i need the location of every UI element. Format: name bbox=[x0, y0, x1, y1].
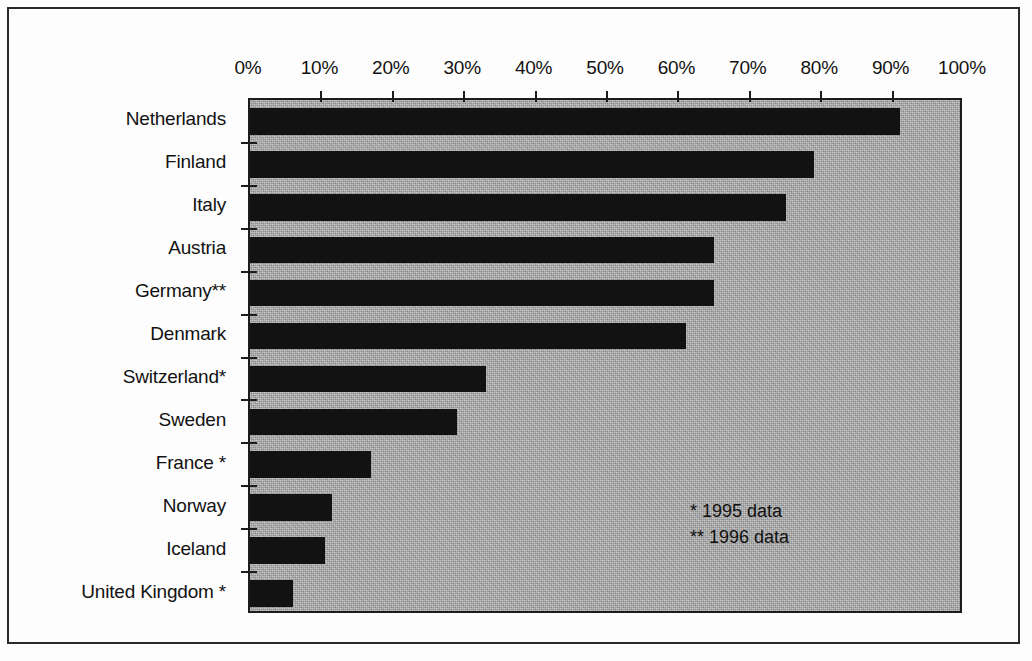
y-axis-category-label: Sweden bbox=[159, 409, 226, 431]
bar-row bbox=[250, 280, 960, 307]
y-axis-tick-mark bbox=[241, 142, 257, 144]
bar-row bbox=[250, 409, 960, 436]
y-axis-category-label: Germany** bbox=[135, 280, 226, 302]
y-axis-tick-mark bbox=[241, 571, 257, 573]
x-axis-tick-label: 80% bbox=[800, 57, 837, 79]
x-axis-tick-mark bbox=[749, 91, 751, 102]
y-axis-category-label: Finland bbox=[165, 151, 226, 173]
bar bbox=[250, 151, 814, 178]
x-axis-tick-label: 70% bbox=[729, 57, 766, 79]
y-axis-tick-mark bbox=[241, 442, 257, 444]
bar-row bbox=[250, 580, 960, 607]
x-axis-tick-mark bbox=[892, 91, 894, 102]
x-axis-tick-label: 30% bbox=[443, 57, 480, 79]
bar bbox=[250, 451, 371, 478]
y-axis-category-label: Norway bbox=[163, 495, 226, 517]
y-axis-category-label: Netherlands bbox=[126, 108, 226, 130]
y-axis-tick-mark bbox=[241, 485, 257, 487]
bar-row bbox=[250, 537, 960, 564]
bar-row bbox=[250, 494, 960, 521]
y-axis-tick-mark bbox=[241, 357, 257, 359]
chart-figure: 0%10%20%30%40%50%60%70%80%90%100% Nether… bbox=[0, 0, 1032, 661]
bar bbox=[250, 237, 714, 264]
x-axis-tick-label: 0% bbox=[234, 57, 261, 79]
x-axis-tick-label: 10% bbox=[301, 57, 338, 79]
bar bbox=[250, 280, 714, 307]
footnote-1996: ** 1996 data bbox=[690, 524, 789, 550]
bar-row bbox=[250, 151, 960, 178]
y-axis-tick-mark bbox=[241, 314, 257, 316]
x-axis-tick-mark bbox=[392, 91, 394, 102]
bar-row bbox=[250, 366, 960, 393]
bar bbox=[250, 580, 293, 607]
bar bbox=[250, 323, 686, 350]
bar bbox=[250, 537, 325, 564]
plot-area bbox=[248, 98, 962, 613]
x-axis-tick-mark bbox=[320, 91, 322, 102]
bar bbox=[250, 409, 457, 436]
y-axis-tick-mark bbox=[241, 271, 257, 273]
x-axis-tick-label: 60% bbox=[658, 57, 695, 79]
y-axis-category-label: Denmark bbox=[150, 323, 226, 345]
footnote-1995: * 1995 data bbox=[690, 498, 789, 524]
footnote-block: * 1995 data ** 1996 data bbox=[690, 498, 789, 550]
x-axis-tick-label: 100% bbox=[938, 57, 986, 79]
bar-row bbox=[250, 194, 960, 221]
x-axis-tick-mark bbox=[820, 91, 822, 102]
y-axis-category-labels: NetherlandsFinlandItalyAustriaGermany**D… bbox=[0, 98, 238, 613]
y-axis-category-label: United Kingdom * bbox=[81, 581, 226, 603]
bar bbox=[250, 194, 786, 221]
y-axis-tick-mark bbox=[241, 528, 257, 530]
bar-row bbox=[250, 451, 960, 478]
bar bbox=[250, 108, 900, 135]
x-axis-tick-label: 20% bbox=[372, 57, 409, 79]
x-axis-tick-label: 50% bbox=[586, 57, 623, 79]
bar-row bbox=[250, 108, 960, 135]
y-axis-category-label: Italy bbox=[192, 194, 226, 216]
x-axis-tick-label: 40% bbox=[515, 57, 552, 79]
x-axis-tick-mark bbox=[677, 91, 679, 102]
x-axis-tick-mark bbox=[535, 91, 537, 102]
y-axis-category-label: Iceland bbox=[166, 538, 226, 560]
bar-row bbox=[250, 237, 960, 264]
bar bbox=[250, 366, 486, 393]
y-axis-category-label: Austria bbox=[168, 237, 226, 259]
y-axis-tick-mark bbox=[241, 399, 257, 401]
x-axis-tick-mark bbox=[606, 91, 608, 102]
bar-row bbox=[250, 323, 960, 350]
x-axis-tick-labels: 0%10%20%30%40%50%60%70%80%90%100% bbox=[248, 57, 962, 83]
y-axis-tick-mark bbox=[241, 228, 257, 230]
bar bbox=[250, 494, 332, 521]
x-axis-tick-label: 90% bbox=[872, 57, 909, 79]
y-axis-tick-mark bbox=[241, 185, 257, 187]
y-axis-category-label: Switzerland* bbox=[123, 366, 226, 388]
y-axis-category-label: France * bbox=[156, 452, 226, 474]
x-axis-tick-mark bbox=[463, 91, 465, 102]
